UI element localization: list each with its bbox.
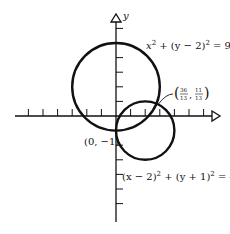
equation-circle-1: x2 + (y − 2)2 = 9 — [146, 39, 230, 51]
intersection-label-2: ( 36 13 , 11 13 ) — [174, 85, 209, 101]
svg-text:,: , — [189, 89, 192, 100]
svg-text:(: ( — [174, 85, 179, 101]
svg-text:11: 11 — [195, 87, 202, 93]
svg-text:36: 36 — [180, 87, 187, 93]
leader-line — [159, 94, 174, 104]
svg-text:13: 13 — [195, 95, 202, 101]
svg-text:13: 13 — [180, 95, 187, 101]
equation-circle-2: (x − 2)2 + (y + 1)2 = 4 — [122, 170, 230, 182]
svg-text:): ) — [204, 85, 209, 101]
intersection-label-1: (0, −1) — [84, 136, 119, 147]
y-axis-label: y — [122, 10, 129, 21]
coordinate-diagram: y x2 + (y − 2)2 = 9 (x − 2)2 + (y + 1)2 … — [0, 0, 230, 234]
